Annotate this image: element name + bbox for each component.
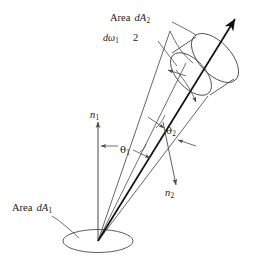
area-dA1-subscript: 1 [48, 207, 52, 215]
theta2-arrow-line [148, 117, 164, 128]
domega1-subscript: 1 [115, 37, 119, 45]
theta1-subscript: 1 [126, 149, 130, 157]
cone-upper-left-generator [98, 31, 170, 241]
theta2-subscript: 2 [172, 130, 176, 138]
area-dA2-subscript: 2 [146, 17, 150, 25]
theta2-angle-marker-group [148, 115, 165, 128]
cone-inner-generator [98, 63, 186, 241]
dA2-extent-arrow-left [178, 140, 196, 146]
domega1-label: dω1 [103, 33, 119, 45]
area-dA2-word: Area [110, 12, 130, 23]
cone-lower-right-generator [98, 96, 208, 241]
area-dA2-label: AreadA2 [110, 13, 150, 25]
n2-label: n2 [165, 188, 174, 200]
dw1-leader-line [158, 41, 177, 66]
two-text: 2 [133, 32, 138, 43]
n1-label: n1 [90, 110, 99, 122]
dA2-far-rim-ellipse [183, 25, 247, 91]
diagram-canvas [0, 0, 261, 260]
dA2-near-rim-ellipse [163, 45, 219, 102]
n2-subscript: 2 [170, 192, 174, 200]
two-label: 2 [133, 33, 138, 44]
n1-subscript: 1 [95, 114, 99, 122]
area-dA1-word: Area [12, 202, 32, 213]
area-dA1-label: AreadA1 [12, 203, 52, 215]
dA1-leader-line [52, 216, 79, 238]
theta1-label: θ1 [120, 140, 130, 157]
dw1-solid-angle-cone-group [98, 31, 208, 241]
domega1-symbol: dω [103, 32, 115, 43]
radiometry-diagram-figure: AreadA2 dω1 2 n1 n2 θ1 θ2 AreadA1 [0, 0, 261, 260]
dA2-leader-line [172, 22, 196, 35]
surface-dA1-group [52, 216, 133, 253]
area-dA1-symbol: dA [36, 202, 48, 213]
area-dA2-symbol: dA [134, 12, 146, 23]
theta2-label: θ2 [166, 121, 176, 138]
